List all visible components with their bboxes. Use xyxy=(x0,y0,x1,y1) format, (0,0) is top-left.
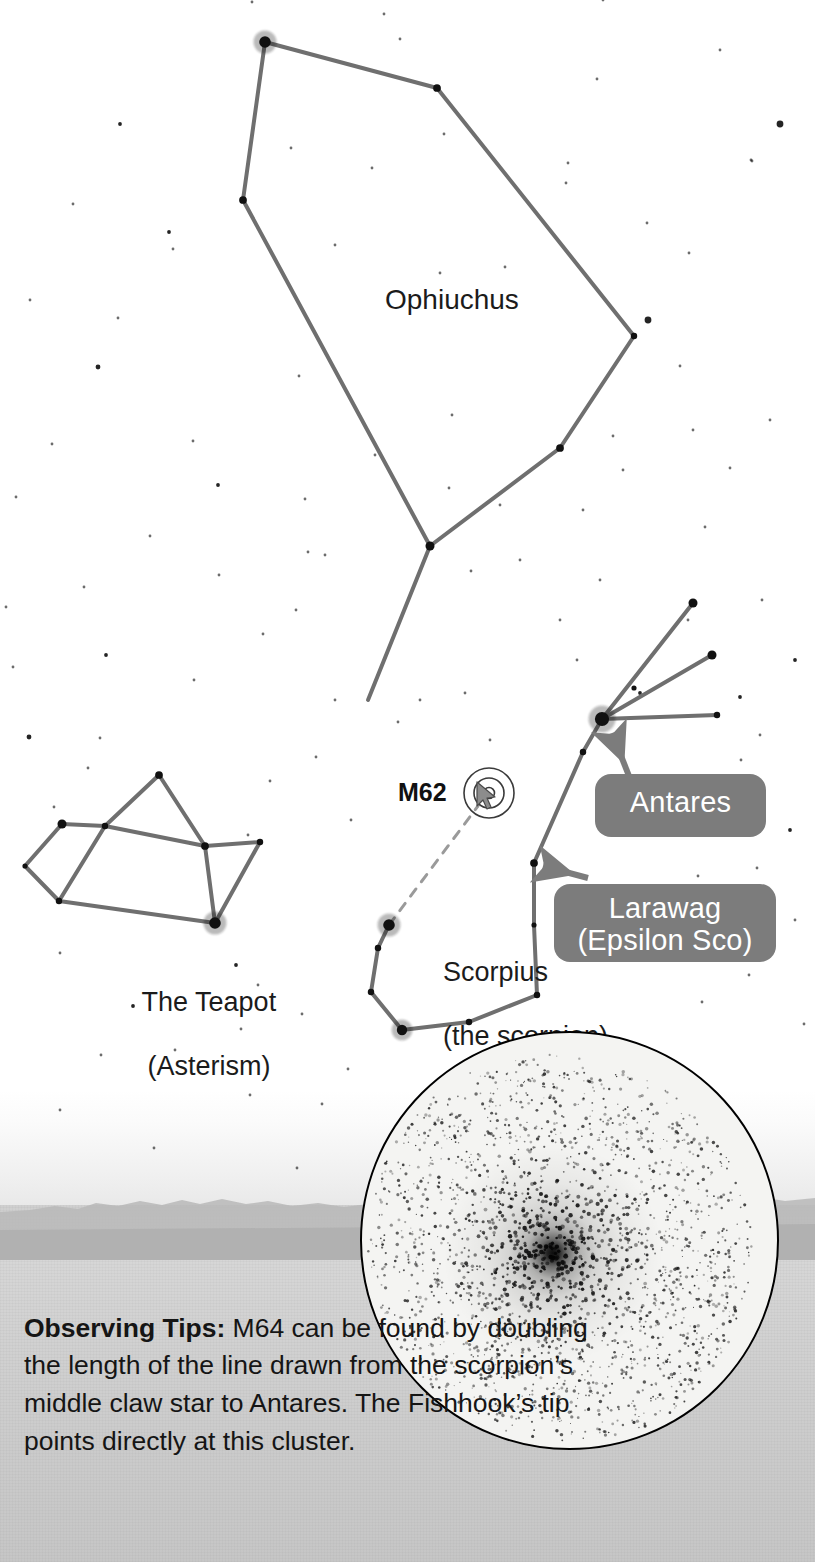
label-ophiuchus: Ophiuchus xyxy=(385,283,519,316)
constellation-line xyxy=(368,546,430,700)
label-teapot-line1: The Teapot xyxy=(142,987,277,1017)
label-teapot-line2: (Asterism) xyxy=(148,1051,271,1081)
background-star xyxy=(451,414,454,417)
background-star xyxy=(193,679,196,682)
star-oph-se xyxy=(556,444,564,452)
constellation-line xyxy=(371,948,378,992)
background-star xyxy=(612,435,615,438)
background-star xyxy=(72,203,75,206)
star-claw-upper xyxy=(688,598,697,607)
background-star xyxy=(756,867,759,870)
constellation-line xyxy=(430,448,560,546)
background-star xyxy=(769,419,772,422)
background-star xyxy=(397,721,400,724)
background-star xyxy=(315,756,318,759)
background-star xyxy=(100,1054,103,1057)
star-claw-mid-inner xyxy=(631,685,636,690)
background-star xyxy=(602,0,605,1)
background-star xyxy=(559,619,562,622)
callout-larawag[interactable]: Larawag (Epsilon Sco) xyxy=(554,884,776,962)
background-star xyxy=(777,121,784,128)
background-star xyxy=(687,619,690,622)
background-star xyxy=(118,122,122,126)
star-antares xyxy=(595,712,609,726)
star-oph-head xyxy=(259,36,271,48)
background-star xyxy=(295,609,298,612)
background-star xyxy=(399,38,402,41)
background-star xyxy=(567,162,570,165)
background-star xyxy=(334,699,337,702)
background-star xyxy=(269,780,272,783)
star-tp-lid xyxy=(155,771,163,779)
constellation-line xyxy=(534,752,583,863)
star-tp-sw xyxy=(56,898,62,904)
background-star xyxy=(740,759,743,762)
background-star xyxy=(99,737,102,740)
background-star xyxy=(59,1109,62,1112)
callout-antares[interactable]: Antares xyxy=(595,774,766,837)
star-chart-page: Ophiuchus Scorpius (the scorpion) The Te… xyxy=(0,0,815,1562)
constellation-line xyxy=(602,715,717,719)
constellation-line xyxy=(243,42,265,200)
background-star xyxy=(759,734,762,737)
constellation-line xyxy=(560,336,634,448)
background-star xyxy=(321,1103,324,1106)
star-tp-w xyxy=(22,863,27,868)
background-star xyxy=(692,429,695,432)
background-star xyxy=(350,819,353,822)
background-star xyxy=(15,496,18,499)
constellation-line xyxy=(265,42,437,88)
background-star xyxy=(448,487,451,490)
constellation-line xyxy=(159,775,205,846)
background-star xyxy=(324,554,327,557)
observing-tips-heading: Observing Tips: xyxy=(24,1313,225,1343)
constellation-line xyxy=(602,603,693,719)
background-star xyxy=(622,469,625,472)
star-tp-e xyxy=(257,839,263,845)
constellation-line xyxy=(59,901,215,923)
background-star xyxy=(565,182,568,185)
background-star xyxy=(59,952,62,955)
background-star xyxy=(251,1,254,4)
star-sco-sigma xyxy=(580,749,586,755)
background-star xyxy=(576,659,579,662)
background-star xyxy=(27,735,32,740)
star-sco-claw-mid-star xyxy=(383,919,395,931)
constellation-line xyxy=(215,842,260,923)
background-star xyxy=(296,1167,299,1170)
background-star xyxy=(704,526,707,529)
background-star xyxy=(599,579,602,582)
background-star xyxy=(748,974,751,977)
background-star xyxy=(53,806,56,809)
star-claw-middle xyxy=(707,650,716,659)
guide-line-group xyxy=(389,806,478,925)
background-star xyxy=(439,272,442,275)
background-star xyxy=(645,317,652,324)
callout-larawag-line1: Larawag xyxy=(609,892,722,924)
background-star xyxy=(419,699,422,702)
background-star xyxy=(83,586,86,589)
antares-arrow-icon xyxy=(612,733,629,776)
background-star xyxy=(218,574,221,577)
background-star xyxy=(347,1068,350,1071)
constellation-line xyxy=(105,775,159,826)
background-star xyxy=(117,317,120,320)
background-star xyxy=(262,633,265,636)
background-star xyxy=(751,160,754,163)
background-star xyxy=(298,375,301,378)
constellation-line xyxy=(602,655,712,719)
star-sco-kappa xyxy=(375,945,381,951)
background-star xyxy=(371,167,374,170)
constellation-line xyxy=(62,824,105,826)
star-oph-e xyxy=(631,333,637,339)
background-star xyxy=(87,767,90,770)
background-star xyxy=(301,1013,304,1016)
constellation-line xyxy=(59,826,105,901)
background-star xyxy=(192,440,195,443)
background-star xyxy=(719,49,722,52)
label-scorpius-line1: Scorpius xyxy=(443,957,548,987)
background-star xyxy=(172,248,175,251)
background-star xyxy=(794,919,797,922)
star-oph-w xyxy=(239,196,247,204)
background-star xyxy=(596,78,599,81)
